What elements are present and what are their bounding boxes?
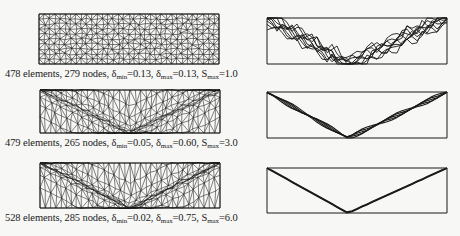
mesh-caption: 528 elements, 285 nodes, δmin=0.02, δmax… (5, 212, 238, 223)
caption-delta-min: δmin=0.13 (112, 68, 151, 79)
mesh-panel-1 (38, 13, 220, 65)
mesh-caption: 479 elements, 265 nodes, δmin=0.05, δmax… (5, 137, 238, 148)
caption-delta-min: δmin=0.02 (112, 212, 151, 223)
caption-s-max: Smax=3.0 (201, 137, 237, 148)
caption-nodes: 285 nodes (65, 212, 107, 223)
caption-delta-max: δmax=0.13 (156, 68, 196, 79)
caption-delta-max: δmax=0.75 (156, 212, 196, 223)
mesh-panel-3 (39, 162, 221, 209)
solution-panel-2 (266, 91, 448, 139)
caption-delta-min: δmin=0.05 (112, 137, 151, 148)
mesh-caption: 478 elements, 279 nodes, δmin=0.13, δmax… (5, 68, 238, 79)
caption-delta-max: δmax=0.60 (156, 137, 196, 148)
caption-nodes: 265 nodes (65, 137, 107, 148)
caption-nodes: 279 nodes (65, 68, 107, 79)
mesh-panel-2 (39, 89, 221, 134)
caption-s-max: Smax=6.0 (201, 212, 237, 223)
caption-elements: 479 elements (5, 137, 60, 148)
caption-elements: 478 elements (5, 68, 60, 79)
solution-panel-1 (266, 17, 448, 65)
caption-elements: 528 elements (5, 212, 60, 223)
solution-panel-3 (266, 167, 448, 214)
caption-s-max: Smax=1.0 (201, 68, 237, 79)
